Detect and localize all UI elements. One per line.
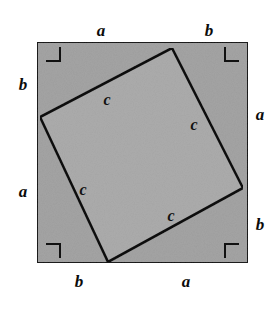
- label-hypotenuse-bottom-left: c: [79, 182, 86, 198]
- label-hypotenuse-bottom-right: c: [167, 208, 174, 224]
- label-left-a: a: [19, 183, 28, 200]
- label-right-b: b: [256, 216, 265, 233]
- label-left-b: b: [19, 76, 28, 93]
- label-top-b: b: [205, 22, 214, 39]
- pythagorean-diagram-figure: a b b a a b b a c c c c: [0, 0, 275, 309]
- diagram-canvas: [0, 0, 275, 309]
- label-top-a: a: [97, 22, 106, 39]
- label-bottom-a: a: [182, 273, 191, 290]
- label-hypotenuse-top-right: c: [190, 117, 197, 133]
- label-right-a: a: [256, 106, 265, 123]
- label-hypotenuse-top-left: c: [103, 92, 110, 108]
- label-bottom-b: b: [75, 273, 84, 290]
